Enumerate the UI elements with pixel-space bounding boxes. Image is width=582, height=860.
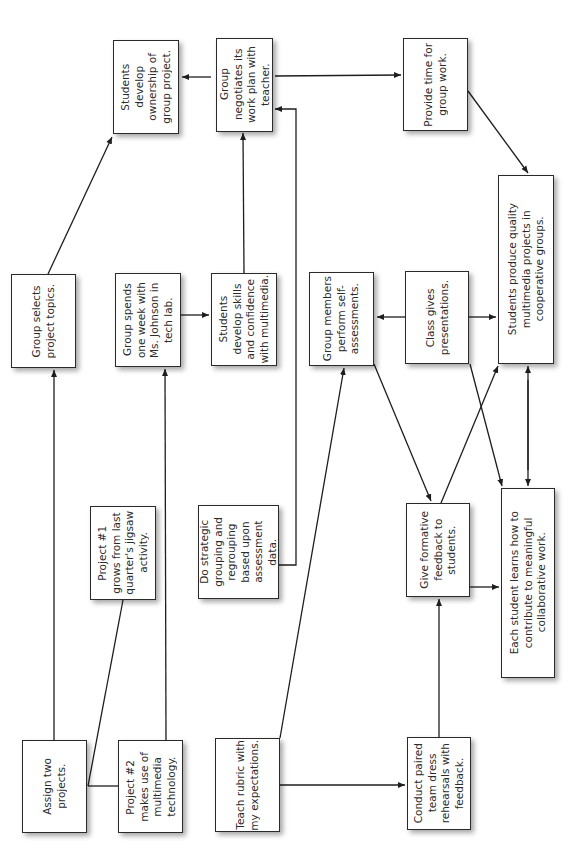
node-students-produce-quality: Students produce quality multimedia proj… <box>498 175 554 364</box>
node-label: Do strategic grouping and regrouping bas… <box>198 517 279 587</box>
node-label: Teach rubric with my expectations. <box>234 740 261 831</box>
node-label: Group spends one week with Ms. Johnson i… <box>121 282 175 358</box>
edge-strategic-negotiates <box>275 109 296 565</box>
node-group-negotiates: Group negotiates its work plan with teac… <box>216 38 273 132</box>
node-label: Project #2 makes use of multimedia techn… <box>124 752 178 822</box>
node-label: Group selects project topics. <box>30 284 57 358</box>
node-provide-time: Provide time for group work. <box>403 38 468 131</box>
node-group-selects-topics: Group selects project topics. <box>11 274 76 368</box>
edge-formative-quality <box>441 366 498 503</box>
node-label: Provide time for group work. <box>422 43 449 127</box>
node-each-student-learns: Each student learns how to contribute to… <box>501 488 555 678</box>
node-label: Students develop skills and confidence w… <box>217 275 271 364</box>
connector-lines <box>0 0 582 860</box>
edge-rubric-self-assess <box>280 368 344 738</box>
node-label: Class gives presentations. <box>424 280 451 355</box>
node-formative-feedback: Give formative feedback to students. <box>406 503 470 597</box>
node-label: Each student learns how to contribute to… <box>508 511 549 654</box>
node-teach-rubric: Teach rubric with my expectations. <box>215 738 280 832</box>
node-label: Project #1 grows from last quarter's jig… <box>96 511 150 595</box>
edge-provide-time-quality <box>468 91 528 173</box>
node-self-assessments: Group members perform self- assessments. <box>309 272 374 366</box>
node-strategic-grouping: Do strategic grouping and regrouping bas… <box>198 505 279 599</box>
concept-map-diagram: Assign two projects. Project #2 makes us… <box>0 0 582 860</box>
node-label: Group negotiates its work plan with teac… <box>218 46 272 123</box>
node-label: Conduct paired team dress rehearsals wit… <box>412 743 466 823</box>
edge-self-assess-formative <box>374 364 431 501</box>
edge-selects-ownership <box>48 137 112 274</box>
edge-negotiates-provide-time <box>275 75 401 76</box>
node-students-develop-ownership: Students develop ownership of group proj… <box>113 40 179 134</box>
node-label: Assign two projects. <box>41 758 68 815</box>
edge-presentations-each-student <box>470 364 502 486</box>
node-label: Group members perform self- assessments. <box>321 276 362 361</box>
edge-project2-spends <box>165 369 166 740</box>
node-label: Students develop ownership of group proj… <box>119 50 173 124</box>
edge-skills-negotiates <box>243 133 244 273</box>
node-label: Give formative feedback to students. <box>418 511 459 589</box>
node-label: Students produce quality multimedia proj… <box>506 203 547 335</box>
node-paired-rehearsals: Conduct paired team dress rehearsals wit… <box>407 737 471 830</box>
node-group-spends-week: Group spends one week with Ms. Johnson i… <box>115 273 181 367</box>
node-assign-two-projects: Assign two projects. <box>22 740 87 833</box>
node-project-2: Project #2 makes use of multimedia techn… <box>118 740 183 833</box>
node-class-presentations: Class gives presentations. <box>405 271 469 364</box>
node-project-1: Project #1 grows from last quarter's jig… <box>90 506 156 600</box>
node-students-develop-skills: Students develop skills and confidence w… <box>211 273 277 366</box>
